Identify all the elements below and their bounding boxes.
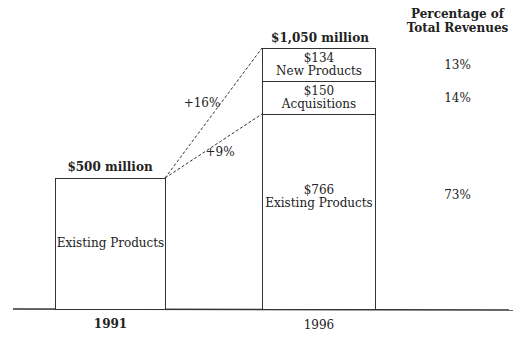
year-1991: 1991 (55, 317, 166, 331)
growth-9-label: +9% (205, 145, 235, 159)
bar-1991-label: Existing Products (55, 236, 166, 250)
total-1991: $500 million (55, 160, 165, 174)
pct-new: 13% (400, 58, 515, 72)
exist-value: $766 (262, 183, 376, 197)
pct-header-line1: Percentage of (400, 7, 515, 21)
new-label: New Products (262, 64, 376, 78)
pct-header-line2: Total Revenues (400, 21, 515, 35)
exist-label: Existing Products (262, 196, 376, 210)
pct-acq: 14% (400, 91, 515, 105)
year-1996: 1996 (262, 318, 376, 332)
bar-1996-existing (262, 114, 376, 310)
total-1996: $1,050 million (250, 31, 390, 45)
pct-exist: 73% (400, 188, 515, 202)
growth-16-label: +16% (182, 96, 222, 110)
acq-value: $150 (262, 84, 376, 98)
new-value: $134 (262, 51, 376, 65)
acq-label: Acquisitions (262, 97, 376, 111)
